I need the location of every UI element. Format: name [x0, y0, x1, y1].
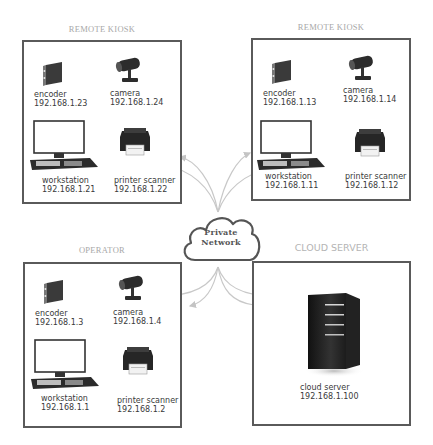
encoder-icon	[271, 59, 295, 85]
camera-icon	[114, 56, 144, 84]
printer-icon	[118, 125, 152, 157]
device-ip: 192.168.1.4	[113, 317, 161, 326]
device-ip: 192.168.1.22	[114, 185, 175, 194]
device-ip: 192.168.1.2	[117, 405, 178, 414]
device-ip: 192.168.1.1	[41, 403, 89, 412]
device-name: workstation	[41, 394, 89, 403]
device-name: cloud server	[300, 383, 359, 392]
printer-icon	[353, 126, 387, 158]
zone-title-cloud-server: CLOUD SERVER	[252, 242, 411, 253]
device-camera[interactable]: camera 192.168.1.24	[110, 54, 170, 112]
encoder-icon	[43, 279, 67, 305]
encoder-icon	[42, 61, 66, 87]
device-ip: 192.168.1.23	[34, 99, 87, 108]
device-camera[interactable]: camera 192.168.1.14	[343, 52, 403, 110]
device-printer-scanner[interactable]: printer scanner 192.168.1.22	[114, 125, 180, 201]
device-printer-scanner[interactable]: printer scanner 192.168.1.2	[117, 344, 183, 420]
device-name: workstation	[265, 172, 318, 181]
device-name: camera	[113, 308, 161, 317]
device-ip: 192.168.1.24	[110, 98, 163, 107]
device-name: printer scanner	[345, 172, 406, 181]
device-name: encoder	[34, 90, 87, 99]
hub-label-line1: Private	[190, 227, 252, 237]
device-printer-scanner[interactable]: printer scanner 192.168.1.12	[345, 126, 411, 198]
device-ip: 192.168.1.13	[263, 98, 316, 107]
device-ip: 192.168.1.12	[345, 181, 406, 190]
zone-cloud-server: cloud server 192.168.1.100	[252, 261, 411, 426]
device-name: encoder	[263, 89, 316, 98]
zone-title-remote-kiosk-1: REMOTE KIOSK	[22, 24, 182, 34]
device-ip: 192.168.1.100	[300, 392, 359, 401]
device-encoder[interactable]: encoder 192.168.1.3	[35, 274, 95, 330]
device-ip: 192.168.1.14	[343, 95, 396, 104]
workstation-icon	[255, 120, 327, 172]
device-name: camera	[110, 89, 163, 98]
device-cloud-server[interactable]: cloud server 192.168.1.100	[290, 291, 380, 411]
device-name: encoder	[35, 309, 83, 318]
device-name: printer scanner	[114, 176, 175, 185]
zone-title-remote-kiosk-2: REMOTE KIOSK	[251, 22, 411, 32]
printer-icon	[121, 344, 155, 376]
private-network-hub: Private Network	[190, 227, 252, 247]
device-encoder[interactable]: encoder 192.168.1.13	[263, 54, 323, 110]
zone-operator: encoder 192.168.1.3 camera 192.168.1.4 w…	[23, 262, 182, 428]
device-name: printer scanner	[117, 396, 178, 405]
zone-title-operator: OPERATOR	[23, 245, 181, 255]
device-workstation[interactable]: workstation 192.168.1.1	[29, 339, 105, 419]
device-ip: 192.168.1.3	[35, 318, 83, 327]
zone-remote-kiosk-2: encoder 192.168.1.13 camera 192.168.1.14…	[251, 38, 411, 201]
device-name: workstation	[42, 176, 95, 185]
device-name: camera	[343, 86, 396, 95]
camera-icon	[347, 54, 377, 82]
camera-icon	[117, 274, 147, 302]
device-workstation[interactable]: workstation 192.168.1.21	[28, 120, 104, 200]
workstation-icon	[28, 120, 100, 172]
device-workstation[interactable]: workstation 192.168.1.11	[255, 120, 331, 198]
workstation-icon	[29, 339, 101, 391]
device-ip: 192.168.1.11	[265, 181, 318, 190]
device-camera[interactable]: camera 192.168.1.4	[113, 272, 173, 330]
zone-remote-kiosk-1: encoder 192.168.1.23 camera 192.168.1.24…	[22, 40, 182, 204]
device-ip: 192.168.1.21	[42, 185, 95, 194]
hub-label-line2: Network	[190, 237, 252, 247]
device-encoder[interactable]: encoder 192.168.1.23	[34, 56, 94, 112]
server-tower-icon	[304, 291, 366, 377]
